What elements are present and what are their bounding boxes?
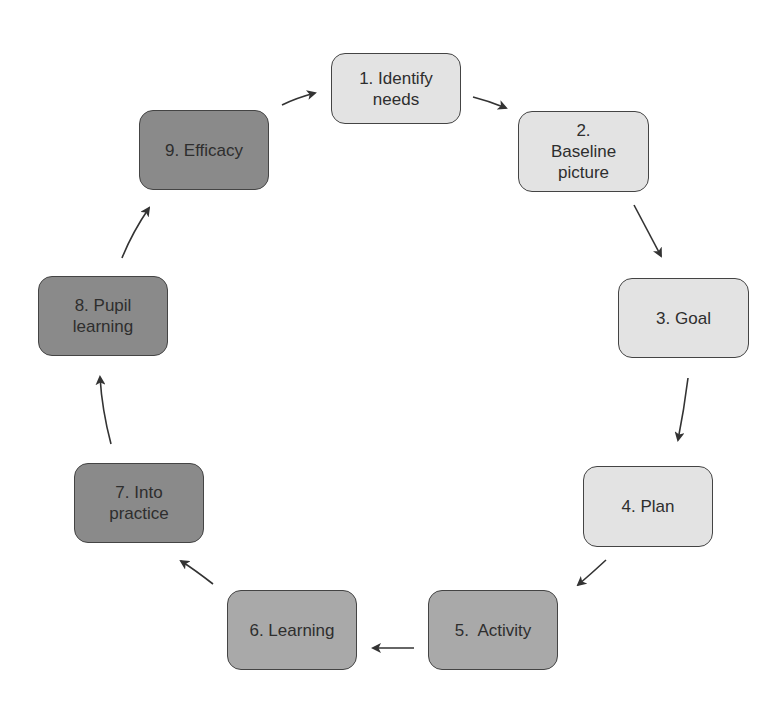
arrow-6-to-7 — [181, 561, 213, 584]
arrow-2-to-3 — [634, 205, 661, 256]
node-label: 9. Efficacy — [165, 140, 243, 161]
node-activity: 5. Activity — [428, 590, 558, 670]
arrow-9-to-1 — [282, 93, 315, 105]
arrow-8-to-9 — [122, 208, 149, 258]
node-pupil-learning: 8. Pupil learning — [38, 276, 168, 356]
node-label: 7. Into practice — [109, 482, 169, 524]
node-label: 3. Goal — [656, 308, 711, 329]
arrow-1-to-2 — [473, 97, 506, 108]
node-identify-needs: 1. Identify needs — [331, 53, 461, 124]
node-label: 4. Plan — [622, 496, 675, 517]
node-goal: 3. Goal — [618, 278, 749, 358]
node-label: 8. Pupil learning — [73, 295, 134, 337]
node-into-practice: 7. Into practice — [74, 463, 204, 543]
node-efficacy: 9. Efficacy — [139, 110, 269, 190]
node-plan: 4. Plan — [583, 466, 713, 547]
arrow-4-to-5 — [578, 560, 606, 585]
arrow-3-to-4 — [678, 378, 688, 440]
node-label: 2. Baseline picture — [551, 120, 616, 183]
arrow-7-to-8 — [100, 377, 111, 444]
node-label: 5. Activity — [455, 620, 532, 641]
node-baseline-picture: 2. Baseline picture — [518, 111, 649, 192]
node-label: 6. Learning — [249, 620, 334, 641]
node-learning: 6. Learning — [227, 590, 357, 670]
node-label: 1. Identify needs — [359, 68, 433, 110]
